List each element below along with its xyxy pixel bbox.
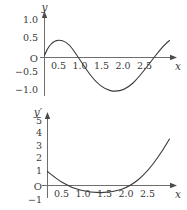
y-tick-label-1.0: 1.0 bbox=[23, 14, 38, 25]
y-tick-label-4: 4 bbox=[36, 127, 42, 138]
x-tick-label-0.5: 0.5 bbox=[54, 188, 69, 199]
function-graph-panel: 1.0 0.5 −0.5 −1.0 O 0.5 1.0 1.5 2.0 2.5 … bbox=[0, 0, 187, 103]
origin-label: O bbox=[34, 181, 42, 192]
x-tick-label-1.0: 1.0 bbox=[72, 60, 87, 71]
x-axis-label: x bbox=[175, 60, 181, 72]
x-tick-label-2.0: 2.0 bbox=[118, 188, 133, 199]
origin-label: O bbox=[30, 53, 38, 64]
y-tick-label-0.5: 0.5 bbox=[23, 32, 38, 43]
function-graph-svg: 1.0 0.5 −0.5 −1.0 O 0.5 1.0 1.5 2.0 2.5 … bbox=[0, 0, 187, 103]
y-axis-arrow-icon bbox=[45, 112, 50, 119]
x-tick-label-0.5: 0.5 bbox=[51, 60, 66, 71]
y-tick-label-2: 2 bbox=[36, 152, 42, 163]
figure-container: 1.0 0.5 −0.5 −1.0 O 0.5 1.0 1.5 2.0 2.5 … bbox=[0, 0, 187, 210]
y-tick-label-neg1.0: −1.0 bbox=[15, 84, 38, 95]
y-tick-label-1: 1 bbox=[36, 165, 42, 176]
y-tick-label-neg1: −1 bbox=[28, 194, 42, 205]
y-tick-label-3: 3 bbox=[36, 140, 42, 151]
x-tick-label-2.5: 2.5 bbox=[137, 60, 152, 71]
y-tick-label-neg0.5: −0.5 bbox=[15, 66, 38, 77]
y-axis-label: y bbox=[41, 1, 49, 13]
x-tick-label-1.5: 1.5 bbox=[97, 188, 112, 199]
y-axis-label: y′ bbox=[33, 106, 43, 118]
derivative-graph-svg: 5 4 3 2 1 −1 O 0.5 1.0 1.5 2.0 2.5 y′ x bbox=[0, 103, 187, 210]
x-axis-label: x bbox=[175, 188, 181, 200]
x-tick-label-1.5: 1.5 bbox=[94, 60, 109, 71]
x-tick-label-2.0: 2.0 bbox=[115, 60, 130, 71]
x-tick-label-1.0: 1.0 bbox=[75, 188, 90, 199]
x-tick-label-2.5: 2.5 bbox=[140, 188, 155, 199]
derivative-graph-panel: 5 4 3 2 1 −1 O 0.5 1.0 1.5 2.0 2.5 y′ x bbox=[0, 103, 187, 210]
derivative-curve bbox=[48, 139, 170, 193]
